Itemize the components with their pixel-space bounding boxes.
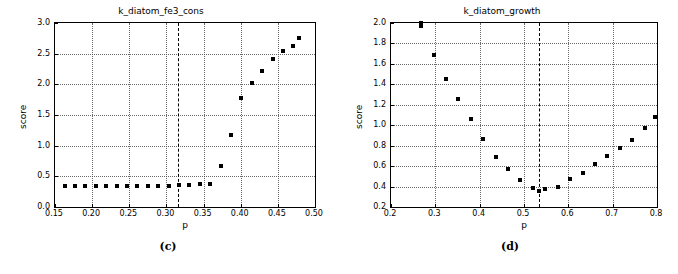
data-point [444,77,448,81]
data-point [469,117,473,121]
data-point [593,162,597,166]
data-point [581,171,585,175]
grid-line-vertical [435,23,436,207]
data-point [198,182,202,186]
x-tick-label: 0.6 [561,209,574,218]
y-tick-label: 3.0 [28,18,50,27]
data-point [518,178,522,182]
y-axis-label-right: score [354,105,364,129]
data-point [537,189,541,193]
data-point [432,53,436,57]
y-tick-mark [391,187,394,188]
grid-line-horizontal [55,115,315,116]
data-point [531,186,535,190]
data-point [219,164,223,168]
data-point [506,167,510,171]
y-tick-mark [391,146,394,147]
plot-area-left [54,22,316,208]
data-point [556,185,560,189]
x-tick-label: 0.5 [517,209,530,218]
chart-panel-left: k_diatom_fe3_cons score p 0.150.200.250.… [6,4,330,232]
plot-area-right [390,22,658,208]
x-tick-mark [435,204,436,207]
x-axis-label-left: p [54,220,316,230]
y-tick-label: 1.8 [364,38,386,47]
y-tick-mark [391,207,394,208]
data-point [291,44,295,48]
y-tick-mark [55,84,58,85]
data-point [135,184,139,188]
y-tick-label: 1.4 [364,79,386,88]
x-tick-label: 0.3 [428,209,441,218]
y-tick-label: 1.6 [364,58,386,67]
x-tick-mark [657,204,658,207]
data-point [146,184,150,188]
data-point [481,137,485,141]
x-tick-mark [92,204,93,207]
y-axis-label-left: score [18,105,28,129]
data-point [63,184,67,188]
x-tick-label: 0.30 [157,209,175,218]
chart-title-right: k_diatom_growth [368,6,636,16]
data-point [83,184,87,188]
y-tick-label: 1.5 [28,110,50,119]
y-tick-label: 1.0 [364,120,386,129]
x-tick-mark [241,204,242,207]
x-tick-label: 0.35 [194,209,212,218]
caption-d: (d) [348,240,672,253]
grid-line-vertical [524,23,525,207]
data-point [208,182,212,186]
data-point [125,184,129,188]
x-tick-label: 0.45 [268,209,286,218]
x-tick-label: 0.8 [650,209,663,218]
data-point [156,184,160,188]
data-point [643,126,647,130]
y-tick-label: 0.4 [364,181,386,190]
x-tick-mark [315,204,316,207]
grid-line-horizontal [391,43,657,44]
x-tick-mark [524,204,525,207]
caption-c: (c) [6,240,330,253]
grid-line-horizontal [391,187,657,188]
grid-line-horizontal [55,146,315,147]
x-tick-label: 0.25 [119,209,137,218]
data-point [94,184,98,188]
grid-line-horizontal [391,64,657,65]
data-point [260,69,264,73]
vertical-reference-line [178,23,179,207]
figure-panels: k_diatom_fe3_cons score p 0.150.200.250.… [0,0,678,274]
x-tick-mark [480,204,481,207]
y-tick-mark [391,166,394,167]
x-tick-mark [568,204,569,207]
x-tick-label: 0.7 [605,209,618,218]
data-point [543,187,547,191]
y-tick-mark [55,146,58,147]
y-tick-label: 2.5 [28,48,50,57]
y-tick-mark [391,105,394,106]
data-point [653,115,657,119]
x-tick-label: 0.40 [231,209,249,218]
data-point [494,155,498,159]
grid-line-horizontal [55,176,315,177]
y-tick-mark [55,54,58,55]
data-point [630,138,634,142]
grid-line-horizontal [391,84,657,85]
x-tick-mark [129,204,130,207]
data-point [618,146,622,150]
y-tick-mark [391,43,394,44]
data-point [271,57,275,61]
y-tick-label: 0.6 [364,161,386,170]
y-tick-label: 1.2 [364,99,386,108]
x-tick-mark [278,204,279,207]
grid-line-horizontal [55,54,315,55]
x-axis-label-right: p [390,220,658,230]
data-point [297,36,301,40]
y-tick-mark [55,176,58,177]
y-tick-mark [391,125,394,126]
y-tick-label: 0.0 [28,202,50,211]
y-tick-mark [55,207,58,208]
data-point [605,154,609,158]
x-tick-mark [204,204,205,207]
chart-title-left: k_diatom_fe3_cons [30,6,292,16]
grid-line-horizontal [391,105,657,106]
